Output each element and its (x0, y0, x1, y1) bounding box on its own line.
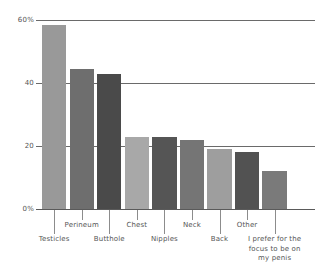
x-axis-tick (275, 210, 276, 234)
bar (180, 140, 204, 209)
bar (125, 137, 149, 209)
x-axis-tick (137, 210, 138, 220)
bar (97, 74, 121, 209)
bar-chart: 60% 40 20 0% TesticlesPerineumButtholeCh… (0, 0, 322, 278)
bar (262, 171, 286, 209)
x-axis-labels: TesticlesPerineumButtholeChestNipplesNec… (0, 209, 322, 278)
bar (207, 149, 231, 209)
bar (152, 137, 176, 209)
bar (70, 69, 94, 209)
x-axis-label: Other (86, 221, 322, 231)
x-axis-tick (82, 210, 83, 220)
bar (235, 152, 259, 209)
bar (42, 25, 66, 209)
x-axis-label: I prefer for the focus to be on my penis (243, 235, 307, 264)
x-axis-tick (247, 210, 248, 220)
x-axis-tick (192, 210, 193, 220)
